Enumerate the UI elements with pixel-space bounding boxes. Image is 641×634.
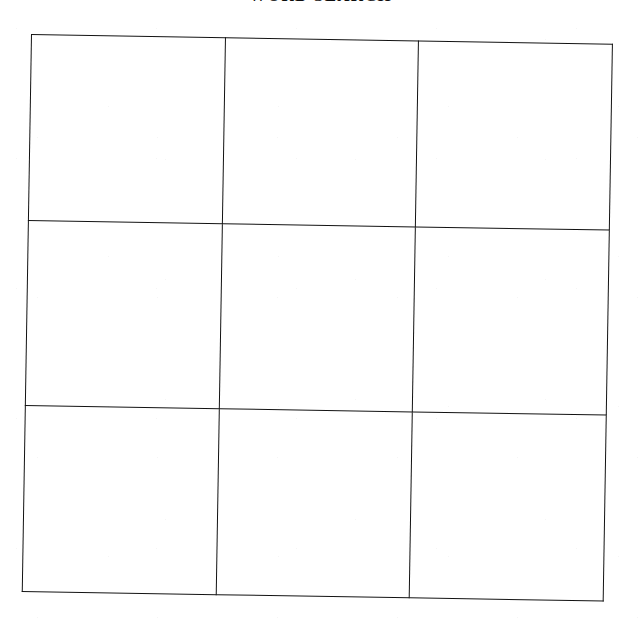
grid-container	[22, 34, 613, 602]
grid-cell-text	[223, 38, 419, 226]
grid-cell-text	[26, 221, 222, 409]
grid-cell-r3c3[interactable]	[410, 412, 607, 601]
table-row	[28, 35, 612, 230]
grid-cell-r2c1[interactable]	[25, 220, 222, 409]
grid-cell-r3c2[interactable]	[216, 409, 413, 598]
grid-cell-text	[29, 35, 225, 223]
grid-cell-r3c1[interactable]	[22, 406, 219, 595]
grid-cell-text	[410, 413, 606, 601]
grid-cell-r1c2[interactable]	[222, 38, 419, 227]
grid-cell-text	[416, 41, 612, 229]
table-row	[25, 220, 609, 415]
grid-cell-text	[413, 227, 609, 415]
grid-cell-r2c2[interactable]	[219, 223, 416, 412]
grid-cell-text	[219, 224, 415, 412]
grid-cell-r1c1[interactable]	[28, 35, 225, 224]
grid-cell-r1c3[interactable]	[416, 41, 613, 230]
grid-cell-text	[23, 406, 219, 594]
scanned-page: WORD SEARCH	[0, 0, 641, 634]
blank-3x3-grid[interactable]	[22, 34, 613, 602]
table-row	[22, 406, 606, 601]
grid-cell-text	[216, 409, 412, 597]
grid-cell-r2c3[interactable]	[413, 227, 610, 416]
page-title: WORD SEARCH	[0, 0, 641, 5]
